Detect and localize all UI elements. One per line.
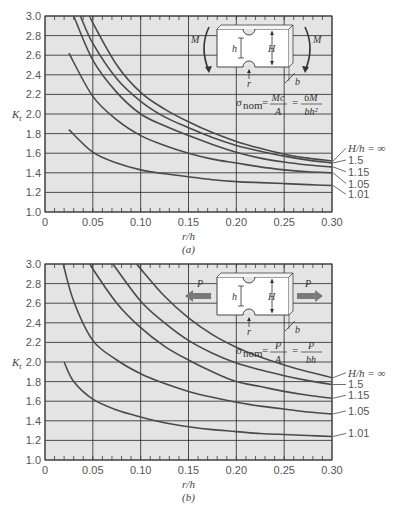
y-tick-label: 2.0	[26, 108, 41, 120]
y-tick-label: 1.6	[26, 395, 41, 407]
formula-sigma-subscript: nom	[243, 99, 263, 111]
y-tick-label: 1.4	[26, 167, 41, 179]
y-tick-label: 1.0	[26, 206, 41, 218]
legend-label: 1.5	[348, 154, 363, 166]
formula-denominator-1: A	[274, 106, 282, 117]
formula-denominator-2: bh²	[305, 106, 319, 117]
x-tick-label: 0.30	[321, 464, 342, 476]
legend-leader-line	[333, 160, 346, 163]
x-tick-label: 0.10	[130, 464, 151, 476]
force-label-left: P	[196, 278, 203, 289]
legend-leader-line	[333, 373, 346, 378]
y-tick-label: 3.0	[26, 10, 41, 22]
chart-panel-b: 1.01.21.41.61.82.02.22.42.62.83.000.050.…	[11, 258, 385, 504]
x-tick-label: 0	[42, 464, 48, 476]
formula-sigma: σ	[236, 96, 242, 108]
y-tick-label: 2.4	[26, 317, 41, 329]
r-label: r	[247, 326, 251, 337]
x-tick-label: 0.15	[178, 216, 199, 228]
legend-label: H/h = ∞	[347, 367, 385, 379]
formula-equals: =	[262, 96, 268, 108]
b-label: b	[295, 76, 300, 87]
H-label: H	[267, 43, 276, 54]
formula-numerator-2: 6M	[304, 92, 318, 103]
y-tick-label: 1.8	[26, 128, 41, 140]
chart-panel-a: 1.01.21.41.61.82.02.22.42.62.83.000.050.…	[11, 10, 385, 256]
formula-sigma: σ	[236, 344, 242, 356]
y-tick-label: 1.8	[26, 376, 41, 388]
moment-label-right: M	[312, 34, 322, 45]
x-tick-label: 0.05	[82, 216, 103, 228]
y-tick-label: 1.2	[26, 434, 41, 446]
legend-leader-line	[333, 395, 346, 398]
formula-equals: =	[262, 344, 268, 356]
H-label: H	[267, 291, 276, 302]
formula-denominator-2: bh	[306, 354, 316, 365]
y-tick-label: 2.2	[26, 336, 41, 348]
specimen-top-face	[217, 273, 293, 277]
r-label: r	[247, 78, 251, 89]
y-axis-label: Kt	[11, 356, 22, 371]
y-axis-label: Kt	[11, 108, 22, 123]
legend-label: H/h = ∞	[347, 142, 385, 154]
y-tick-label: 2.8	[26, 30, 41, 42]
legend-leader-line	[333, 411, 346, 414]
x-tick-label: 0	[42, 216, 48, 228]
y-tick-label: 2.4	[26, 69, 41, 81]
y-tick-label: 2.8	[26, 278, 41, 290]
x-tick-label: 0.25	[273, 464, 294, 476]
y-tick-label: 2.6	[26, 297, 41, 309]
panel-label: (b)	[182, 491, 195, 504]
x-tick-label: 0.10	[130, 216, 151, 228]
y-tick-label: 2.2	[26, 88, 41, 100]
panel-label: (a)	[182, 243, 195, 256]
moment-label-left: M	[190, 34, 200, 45]
formula-numerator-2: P	[307, 340, 314, 351]
legend-label: 1.01	[348, 188, 369, 200]
h-label: h	[232, 43, 237, 54]
formula-numerator-1: P	[274, 340, 281, 351]
y-tick-label: 1.4	[26, 415, 41, 427]
x-tick-label: 0.15	[178, 464, 199, 476]
specimen-top-face	[217, 25, 293, 29]
legend-leader-line	[333, 433, 346, 436]
formula-sigma-subscript: nom	[243, 347, 263, 359]
formula-numerator-1: Mc	[271, 92, 285, 103]
b-label: b	[295, 324, 300, 335]
y-axis-label-subscript: t	[19, 114, 22, 123]
formula-equals: =	[292, 96, 298, 108]
y-tick-label: 2.6	[26, 49, 41, 61]
specimen-side-face	[289, 273, 293, 315]
h-label: h	[232, 291, 237, 302]
y-tick-label: 1.2	[26, 186, 41, 198]
x-axis-label: r/h	[182, 230, 195, 242]
x-tick-label: 0.20	[226, 216, 247, 228]
y-tick-label: 3.0	[26, 258, 41, 270]
x-tick-label: 0.20	[226, 464, 247, 476]
y-axis-label-subscript: t	[19, 362, 22, 371]
legend-leader-line	[333, 186, 346, 195]
legend-leader-line	[333, 173, 346, 184]
figure: 1.01.21.41.61.82.02.22.42.62.83.000.050.…	[0, 0, 396, 509]
legend-leader-line	[333, 167, 346, 172]
x-tick-label: 0.25	[273, 216, 294, 228]
legend-leader-line	[333, 148, 346, 161]
y-tick-label: 1.6	[26, 147, 41, 159]
specimen-side-face	[289, 25, 293, 67]
legend-label: 1.15	[348, 166, 369, 178]
legend-label: 1.01	[348, 427, 369, 439]
y-tick-label: 1.0	[26, 454, 41, 466]
specimen-shape	[217, 29, 289, 67]
specimen-shape	[217, 277, 289, 315]
force-label-right: P	[304, 278, 311, 289]
formula-equals: =	[292, 344, 298, 356]
legend-label: 1.05	[348, 405, 369, 417]
x-tick-label: 0.30	[321, 216, 342, 228]
formula-denominator-1: A	[274, 354, 282, 365]
y-tick-label: 2.0	[26, 356, 41, 368]
x-tick-label: 0.05	[82, 464, 103, 476]
x-axis-label: r/h	[182, 478, 195, 490]
legend-label: 1.15	[348, 389, 369, 401]
